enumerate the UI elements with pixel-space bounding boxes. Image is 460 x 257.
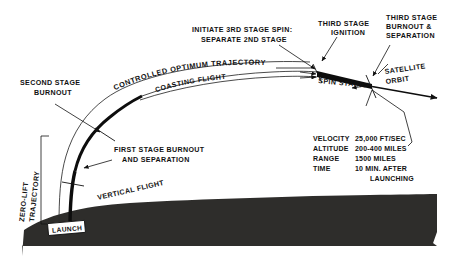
third-stage-burnout-label: THIRD STAGE BURNOUT & SEPARATION [386,14,437,40]
table-row-value-velocity: 25,000 FT/SEC [355,135,406,143]
second-stage-burnout-line2: BURNOUT [34,89,72,97]
table-row-value-time: 10 MIN. AFTER [355,165,407,172]
table-row-label-time: TIME [313,165,331,172]
third-stage-burnout-line3: SEPARATION [386,32,435,40]
table-row-label-altitude: ALTITUDE [313,145,349,152]
first-stage-burnout-line1: FIRST STAGE BURNOUT [114,146,205,154]
table-row-value-range: 1500 MILES [355,155,396,162]
second-stage-burnout-label: SECOND STAGE BURNOUT [20,79,80,97]
third-stage-ignition-line2: IGNITION [331,29,365,37]
vertical-flight-label: VERTICAL FLIGHT [97,179,166,202]
third-stage-ignition-line1: THIRD STAGE [318,20,369,28]
initiate-spin-line1: INITIATE 3RD STAGE SPIN: [192,26,292,34]
third-stage-ignition-label: THIRD STAGE IGNITION [318,20,369,37]
satellite-orbit-line1: SATELLITE [384,62,426,76]
zero-lift-trajectory-label: ZERO-LIFT TRAJECTORY [18,170,41,222]
initiate-third-stage-spin-label: INITIATE 3RD STAGE SPIN: SEPARATE 2ND ST… [192,26,292,44]
table-row-label-range: RANGE [313,155,339,162]
initiate-spin-line2: SEPARATE 2ND STAGE [201,36,287,44]
satellite-orbit-label: SATELLITE ORBIT [384,62,426,86]
third-stage-burnout-line2: BURNOUT & [386,23,432,31]
orbit-parameters-table: VELOCITY 25,000 FT/SEC ALTITUDE 200-400 … [313,135,414,182]
launch-trajectory-diagram: LAUNCH SECOND STAGE BURNOUT INITIATE 3RD… [0,0,460,257]
first-stage-burnout-label: FIRST STAGE BURNOUT AND SEPARATION [114,146,205,164]
third-stage-burnout-line1: THIRD STAGE [386,14,437,22]
second-stage-burnout-line1: SECOND STAGE [20,79,80,87]
satellite-orbit-line2: ORBIT [385,75,410,86]
zero-lift-line2: TRAJECTORY [28,170,41,222]
table-row-value-altitude: 200-400 MILES [355,145,407,152]
diagram-canvas: LAUNCH SECOND STAGE BURNOUT INITIATE 3RD… [0,0,460,257]
coasting-flight-label: COASTING FLIGHT [154,73,226,93]
launch-marker: LAUNCH [48,220,86,235]
spin-stabilized-label: SPIN STABILIZED [0,0,369,89]
table-row-label-velocity: VELOCITY [313,135,350,142]
table-row-value-time-cont: LAUNCHING [370,175,414,182]
first-stage-burnout-line2: AND SEPARATION [122,156,190,164]
